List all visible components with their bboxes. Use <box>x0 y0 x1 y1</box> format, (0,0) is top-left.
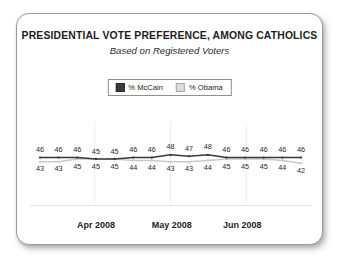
data-point <box>57 156 59 158</box>
value-label: 45 <box>73 162 81 171</box>
data-point <box>76 156 78 158</box>
legend-label-mccain: % McCain <box>128 83 163 92</box>
data-point <box>95 158 97 160</box>
value-label: 45 <box>260 162 268 171</box>
chart-legend: % McCain % Obama <box>107 79 231 96</box>
data-point <box>39 161 41 163</box>
chart-title: PRESIDENTIAL VOTE PREFERENCE, AMONG CATH… <box>17 30 322 41</box>
chart-subtitle: Based on Registered Voters <box>17 45 322 56</box>
value-label: 43 <box>55 164 63 173</box>
value-label: 44 <box>148 163 156 172</box>
data-point <box>281 159 283 161</box>
value-label: 46 <box>222 145 230 154</box>
value-label: 44 <box>129 163 137 172</box>
value-label: 47 <box>185 144 193 153</box>
data-point <box>151 159 153 161</box>
value-label: 43 <box>36 164 44 173</box>
legend-label-obama: % Obama <box>189 83 223 92</box>
data-point <box>207 159 209 161</box>
screenshot-root: PRESIDENTIAL VOTE PREFERENCE, AMONG CATH… <box>0 0 346 265</box>
data-point <box>132 159 134 161</box>
value-label: 46 <box>278 145 286 154</box>
data-point <box>169 161 171 163</box>
value-label: 45 <box>92 147 100 156</box>
data-point <box>300 162 302 164</box>
data-point <box>57 161 59 163</box>
value-label: 46 <box>55 145 63 154</box>
value-label: 43 <box>166 164 174 173</box>
data-point <box>188 155 190 157</box>
chart-svg: 4646464545464648474846464646464343454545… <box>30 122 311 214</box>
value-label: 46 <box>297 145 305 154</box>
data-point <box>281 156 283 158</box>
data-point <box>244 156 246 158</box>
value-label: 48 <box>166 142 174 151</box>
value-label: 43 <box>185 164 193 173</box>
chart-card: PRESIDENTIAL VOTE PREFERENCE, AMONG CATH… <box>16 13 323 245</box>
value-label: 46 <box>241 145 249 154</box>
data-point <box>151 156 153 158</box>
value-label: 46 <box>148 145 156 154</box>
value-label: 45 <box>222 162 230 171</box>
value-label: 48 <box>204 142 212 151</box>
x-axis-tick-jun-2008: Jun 2008 <box>223 220 262 230</box>
data-point <box>188 161 190 163</box>
legend-item-mccain: % McCain <box>115 83 163 92</box>
legend-item-obama: % Obama <box>176 83 223 92</box>
x-axis-tick-apr-2008: Apr 2008 <box>77 220 115 230</box>
value-label: 45 <box>111 147 119 156</box>
x-axis-tick-may-2008: May 2008 <box>152 220 192 230</box>
data-point <box>169 154 171 156</box>
value-label: 46 <box>36 145 44 154</box>
value-label: 45 <box>92 162 100 171</box>
value-label: 46 <box>260 145 268 154</box>
data-point <box>207 154 209 156</box>
legend-swatch-obama <box>176 83 185 92</box>
value-label: 45 <box>241 162 249 171</box>
data-point <box>39 156 41 158</box>
data-point <box>132 156 134 158</box>
plot-area: 4646464545464648474846464646464343454545… <box>30 122 311 214</box>
value-label: 45 <box>111 162 119 171</box>
x-axis-labels: Apr 2008May 2008Jun 2008 <box>30 220 311 236</box>
value-label: 44 <box>278 163 286 172</box>
data-point <box>225 156 227 158</box>
legend-swatch-mccain <box>115 83 124 92</box>
data-point <box>113 158 115 160</box>
value-label: 42 <box>297 166 305 175</box>
value-label: 46 <box>129 145 137 154</box>
data-point <box>263 156 265 158</box>
value-label: 44 <box>204 163 212 172</box>
value-label: 46 <box>73 145 81 154</box>
data-point <box>300 156 302 158</box>
